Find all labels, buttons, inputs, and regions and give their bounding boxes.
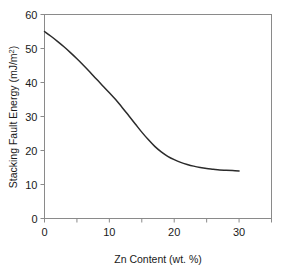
svg-text:Stacking Fault Energy (mJ/m2): Stacking Fault Energy (mJ/m2) [7, 46, 19, 188]
y-tick-label-50: 50 [25, 43, 37, 55]
x-axis-title: Zn Content (wt. %) [114, 253, 202, 265]
y-tick-label-40: 40 [25, 77, 37, 89]
stacking-fault-energy-chart: 0102030405060 0102030 Stacking Fault Ene… [0, 0, 285, 271]
y-axis-title: Stacking Fault Energy (mJ/m2) [7, 46, 19, 188]
chart-figure: 0102030405060 0102030 Stacking Fault Ene… [0, 0, 285, 271]
y-tick-label-60: 60 [25, 9, 37, 21]
y-tick-label-30: 30 [25, 111, 37, 123]
y-tick-label-10: 10 [25, 179, 37, 191]
x-tick-label-30: 30 [233, 226, 245, 238]
y-tick-label-20: 20 [25, 145, 37, 157]
x-tick-label-10: 10 [103, 226, 115, 238]
x-tick-label-0: 0 [41, 226, 47, 238]
y-tick-label-0: 0 [31, 213, 37, 225]
x-tick-label-20: 20 [168, 226, 180, 238]
